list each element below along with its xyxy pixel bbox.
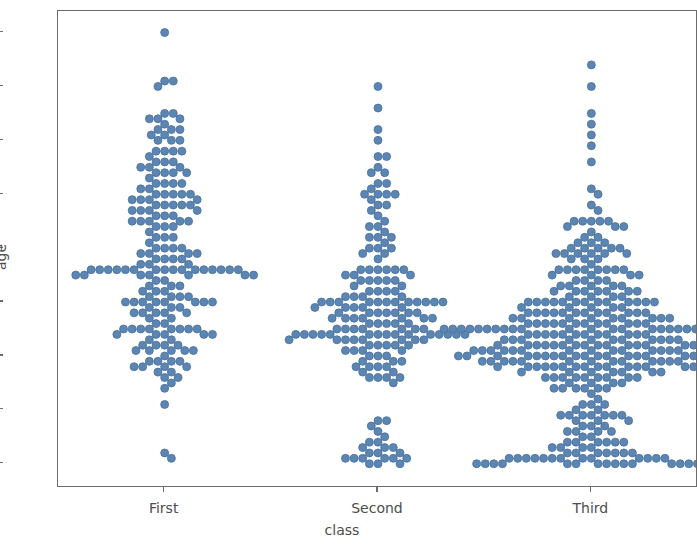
y-tick-mark: [0, 462, 3, 463]
y-axis-label: age: [0, 244, 9, 270]
y-tick-mark: [0, 408, 3, 409]
plot-area: [57, 10, 697, 487]
x-tick-label-third: Third: [572, 500, 608, 516]
y-tick-mark: [0, 193, 3, 194]
y-tick-mark: [0, 139, 3, 140]
x-tick-mark: [163, 487, 164, 492]
y-tick-mark: [0, 31, 3, 32]
y-tick-mark: [0, 300, 3, 301]
y-tick-mark: [0, 85, 3, 86]
x-tick-mark: [590, 487, 591, 492]
swarm-points-canvas: [58, 11, 697, 487]
y-tick-mark: [0, 354, 3, 355]
x-axis-label: class: [0, 522, 684, 538]
x-tick-mark: [376, 487, 377, 492]
x-tick-label-second: Second: [351, 500, 403, 516]
x-tick-label-first: First: [149, 500, 178, 516]
